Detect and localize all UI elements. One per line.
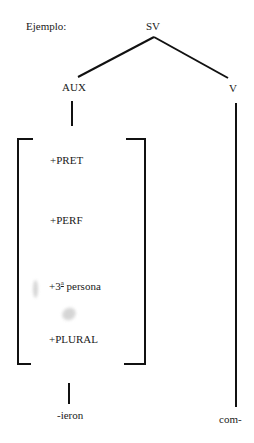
- feature-third-person-suffix: persona: [67, 280, 101, 292]
- left-bracket: [18, 139, 33, 364]
- scan-smudge: [33, 280, 38, 298]
- morpheme-com: com-: [219, 413, 242, 425]
- tree-lines: [0, 0, 254, 443]
- branch-sv-aux: [78, 37, 154, 77]
- node-sv: SV: [146, 20, 160, 32]
- feature-pret: +PRET: [50, 154, 83, 166]
- node-aux: AUX: [62, 81, 86, 93]
- feature-perf: +PERF: [50, 214, 83, 226]
- feature-third-person-superscript: a: [61, 279, 64, 287]
- feature-third-person: +3a persona: [49, 277, 101, 292]
- right-bracket: [124, 139, 145, 364]
- example-label: Ejemplo:: [26, 20, 66, 32]
- feature-plural: +PLURAL: [49, 333, 98, 345]
- morpheme-ieron: -ieron: [57, 409, 83, 421]
- feature-third-person-prefix: +3: [49, 280, 61, 292]
- branch-sv-v: [154, 37, 228, 78]
- node-v: V: [229, 82, 237, 94]
